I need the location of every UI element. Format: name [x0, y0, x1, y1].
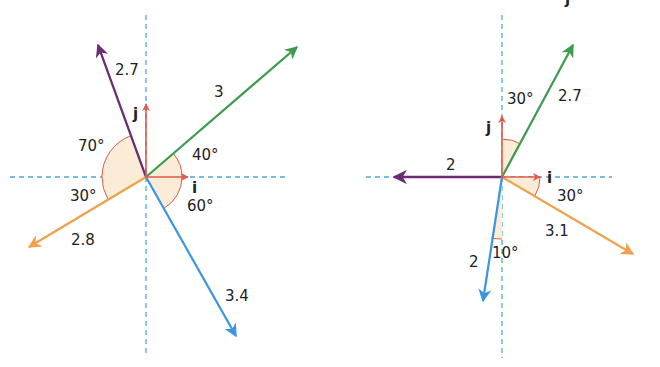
right-vectors: [394, 45, 633, 301]
right-label-j: j: [485, 119, 491, 137]
left-vector-green: [146, 47, 297, 177]
right-diagram: 2.7 2 3.1 2 30° 30° 10° i j: [366, 15, 633, 358]
right-angle-orange: 30°: [557, 187, 584, 205]
right-magnitude-purple: 2: [446, 156, 456, 174]
left-diagram: 3 2.7 2.8 3.4 40° 70° 30° 60° i j: [10, 15, 297, 355]
right-label-i: i: [547, 169, 552, 187]
right-vector-green: [502, 45, 573, 177]
right-angle-green: 30°: [507, 90, 534, 108]
left-angle-blue: 60°: [187, 197, 214, 215]
vector-diagrams: j 3 2.7 2.8 3.4: [0, 0, 660, 367]
right-magnitude-blue: 2: [469, 253, 479, 271]
left-label-i: i: [192, 179, 197, 197]
left-angle-green: 40°: [192, 146, 219, 164]
right-magnitude-green: 2.7: [558, 87, 582, 105]
left-label-j: j: [132, 105, 138, 123]
header-fragment: j: [564, 0, 570, 8]
right-angle-blue: 10°: [492, 244, 519, 262]
left-magnitude-blue: 3.4: [225, 287, 249, 305]
right-magnitude-orange: 3.1: [545, 222, 569, 240]
left-magnitude-purple: 2.7: [115, 61, 139, 79]
left-angle-purple: 70°: [78, 137, 105, 155]
left-angle-orange: 30°: [70, 187, 97, 205]
left-magnitude-green: 3: [214, 83, 224, 101]
left-magnitude-orange: 2.8: [71, 231, 95, 249]
